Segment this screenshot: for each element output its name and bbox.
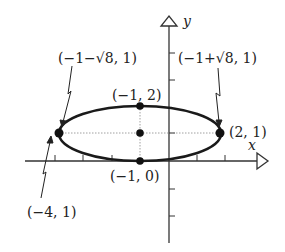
left-vertex-point <box>55 129 64 138</box>
y-axis-label: y <box>182 13 192 29</box>
top-point <box>136 102 144 110</box>
right-vertex-point <box>216 129 225 138</box>
left-focus-label: (−1−√8, 1) <box>58 50 137 66</box>
y-axis-arrow-icon <box>161 16 177 26</box>
bottom-point <box>136 157 144 165</box>
left-focus-arrow <box>63 66 72 122</box>
top-point-label: (−1, 2) <box>112 87 161 103</box>
left-vertex-arrow <box>41 142 50 198</box>
diagram-svg: y x (−1−√8, 1) (−1+√8, 1) (−1, 2) (2, 1)… <box>0 0 285 252</box>
ellipse-diagram: y x (−1−√8, 1) (−1+√8, 1) (−1, 2) (2, 1)… <box>0 0 285 252</box>
bottom-point-label: (−1, 0) <box>110 168 159 184</box>
right-focus-label: (−1+√8, 1) <box>178 50 257 66</box>
ellipse-points <box>55 102 225 165</box>
y-axis <box>161 16 177 243</box>
right-vertex-label: (2, 1) <box>229 124 267 140</box>
x-axis-arrow-icon <box>257 153 268 169</box>
left-vertex-arrowhead-icon <box>47 136 53 143</box>
center-point <box>136 129 144 137</box>
left-vertex-label: (−4, 1) <box>27 204 76 220</box>
right-focus-arrow <box>216 68 220 122</box>
